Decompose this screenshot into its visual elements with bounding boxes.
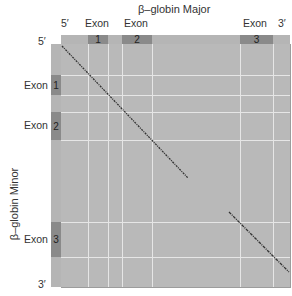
alignment-dots xyxy=(0,0,292,296)
alignment-segment-1 xyxy=(62,46,188,178)
alignment-segment-2 xyxy=(229,212,289,272)
